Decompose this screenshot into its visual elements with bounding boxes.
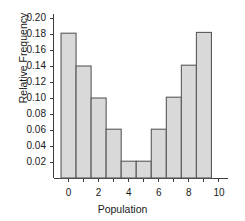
histogram-bar bbox=[196, 32, 211, 178]
histogram-bar bbox=[61, 33, 76, 178]
histogram-chart: Relative Frequency Population 0.020.040.… bbox=[0, 0, 245, 221]
histogram-bar bbox=[136, 161, 151, 178]
histogram-bar bbox=[76, 66, 91, 178]
histogram-bar bbox=[91, 98, 106, 178]
histogram-bar bbox=[151, 129, 166, 178]
plot-area bbox=[0, 0, 245, 221]
histogram-bar bbox=[106, 129, 121, 178]
histogram-bar bbox=[166, 97, 181, 178]
bar-series bbox=[61, 32, 211, 178]
histogram-bar bbox=[121, 161, 136, 178]
histogram-bar bbox=[181, 65, 196, 178]
